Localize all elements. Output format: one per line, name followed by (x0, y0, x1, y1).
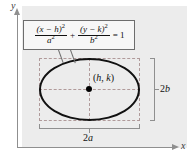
first-numerator-text: (x − h) (37, 24, 62, 34)
height-dimension-tick (155, 89, 159, 90)
first-fraction-denominator: a2 (45, 36, 57, 46)
y-axis-label: y (11, 0, 15, 11)
x-axis-line (17, 147, 174, 148)
first-fraction: (x − h)2 a2 (35, 25, 67, 45)
equation-equals-sign: = (113, 31, 118, 40)
height-label-var: b (165, 83, 170, 94)
second-denominator-exponent: 2 (95, 33, 98, 40)
ellipse-equation: (x − h)2 a2 + (y − k)2 b2 = 1 (34, 25, 125, 45)
width-dimension-label: 2a (83, 132, 93, 143)
formula-callout-box: (x − h)2 a2 + (y − k)2 b2 = 1 (23, 20, 135, 50)
x-axis-arrow-icon (172, 144, 179, 150)
x-axis-label: x (181, 140, 185, 151)
height-dimension-label: 2b (160, 83, 170, 94)
y-axis-line (17, 14, 18, 148)
ellipse-standard-form-figure: y x (h, k) (x − h)2 a2 + (y − k)2 b2 = 1… (0, 0, 193, 167)
ellipse-center-label: (h, k) (93, 72, 114, 83)
second-fraction-denominator: b2 (88, 36, 100, 46)
center-h-value: h (96, 72, 101, 83)
width-label-var: a (88, 132, 93, 143)
first-denominator-exponent: 2 (51, 33, 54, 40)
equation-plus-operator: + (70, 31, 75, 40)
second-fraction: (y − k)2 b2 (78, 25, 110, 45)
equation-right-side: 1 (120, 31, 125, 40)
first-numerator-exponent: 2 (62, 22, 65, 29)
ellipse-center-point (86, 86, 92, 92)
center-k-value: k (106, 72, 110, 83)
second-numerator-exponent: 2 (105, 22, 108, 29)
second-numerator-text: (y − k) (80, 24, 105, 34)
